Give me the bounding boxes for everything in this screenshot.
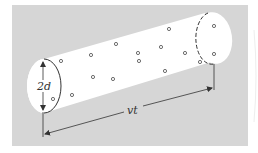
molecule-dot bbox=[111, 77, 114, 80]
molecule-dot bbox=[163, 69, 166, 72]
molecule-dot bbox=[89, 53, 92, 56]
molecule-dot bbox=[212, 24, 215, 27]
length-label: vt bbox=[127, 104, 138, 117]
molecule-dot bbox=[59, 59, 62, 62]
diameter-label: 2d bbox=[36, 80, 51, 93]
page-edge-arc bbox=[254, 30, 256, 122]
molecule-dot bbox=[198, 60, 201, 63]
molecule-dot bbox=[167, 27, 170, 30]
molecule-dot bbox=[159, 45, 162, 48]
molecule-dot bbox=[136, 51, 139, 54]
molecule-dot bbox=[212, 52, 215, 55]
molecule-dot bbox=[51, 97, 54, 100]
molecule-dot bbox=[91, 75, 94, 78]
molecule-dot bbox=[70, 93, 73, 96]
cylinder-diagram: 2d vt bbox=[0, 0, 258, 153]
molecule-dot bbox=[114, 42, 117, 45]
molecule-dot bbox=[137, 59, 140, 62]
molecule-dot bbox=[183, 51, 186, 54]
